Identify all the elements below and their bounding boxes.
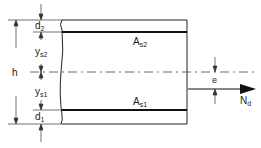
label-as1: As1 (133, 96, 147, 108)
label-d2: d2 (35, 20, 45, 32)
diagram-canvas: d2 ys2 h ys1 d1 As2 As1 e Nd (0, 0, 261, 148)
label-h: h (12, 67, 18, 78)
label-e: e (212, 75, 217, 85)
label-ys1: ys1 (35, 86, 48, 98)
label-nd: Nd (240, 95, 251, 107)
section-diagram: d2 ys2 h ys1 d1 As2 As1 e Nd (0, 0, 261, 148)
label-as2: As2 (133, 36, 147, 48)
label-d1: d1 (35, 111, 45, 123)
force-arrow-nd (188, 84, 256, 94)
label-ys2: ys2 (35, 46, 48, 58)
